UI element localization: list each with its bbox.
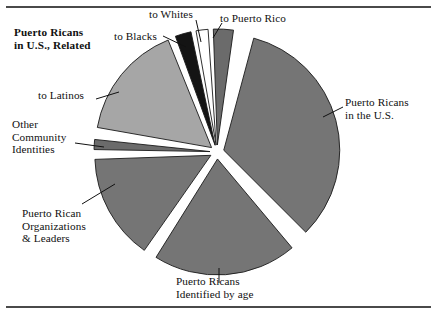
slice-label-to-puerto-rico: to Puerto Rico	[220, 12, 286, 25]
slice-label-other-community-identities: Other Community Identities	[12, 118, 66, 156]
slice-label-to-whites: to Whites	[149, 8, 193, 21]
slice-label-puerto-rican-organizations-and-leaders: Puerto Rican Organizations & Leaders	[22, 207, 86, 245]
pie-slices-group	[94, 29, 340, 275]
slice-label-puerto-ricans-in-the-us: Puerto Ricans in the U.S.	[345, 96, 409, 121]
chart-title-line2: in U.S., Related	[14, 39, 91, 51]
chart-title: Puerto Ricansin U.S., Related	[14, 26, 91, 51]
slice-label-puerto-ricans-identified-by-age: Puerto Ricans Identified by age	[176, 275, 254, 300]
slice-label-to-blacks: to Blacks	[114, 30, 157, 43]
pie-chart-figure: Puerto Ricansin U.S., Related to Blacks …	[0, 0, 437, 319]
slice-label-to-latinos: to Latinos	[38, 89, 84, 102]
chart-title-line1: Puerto Ricans	[14, 26, 83, 38]
